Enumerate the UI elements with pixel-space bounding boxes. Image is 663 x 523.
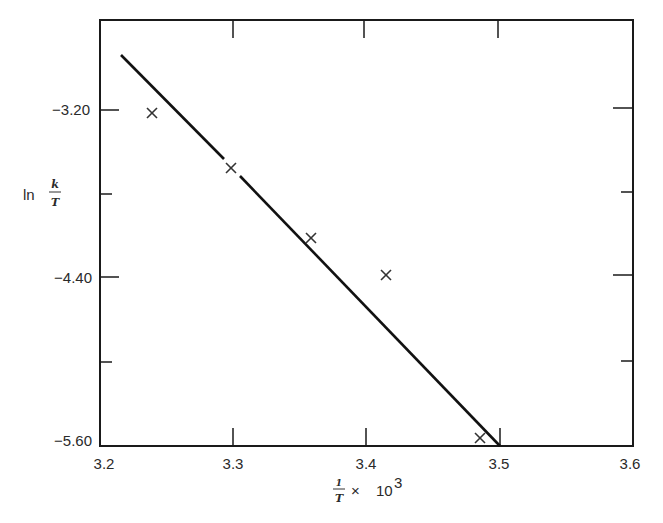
x-axis-label-denominator: T — [335, 492, 344, 505]
x-axis-label-exponent: 3 — [394, 474, 402, 491]
y-axis-label: ln k T — [23, 178, 61, 209]
chart: −3.20 −4.40 −5.60 3.2 3.3 3.4 3.5 3.6 ln… — [0, 0, 663, 523]
y-ticks-left — [100, 110, 119, 362]
plot-frame — [100, 20, 633, 446]
data-point-x-marker — [147, 108, 157, 118]
y-tick-label: −3.20 — [52, 101, 90, 118]
y-tick-label: −4.40 — [54, 269, 92, 286]
y-tick-label: −5.60 — [54, 432, 92, 449]
y-axis-label-prefix: ln — [23, 186, 35, 203]
x-ticks-top — [233, 20, 498, 38]
x-tick-label: 3.3 — [223, 455, 244, 472]
x-tick-label: 3.5 — [489, 455, 510, 472]
x-axis-label-base: 10 — [376, 482, 393, 499]
x-axis-label: 1 T × 10 3 — [333, 474, 402, 505]
y-axis-label-denominator: T — [51, 196, 60, 209]
y-ticks-right — [613, 108, 633, 361]
y-axis-label-numerator: k — [51, 178, 59, 191]
x-ticks-bottom — [233, 428, 500, 446]
data-point-x-marker — [306, 233, 316, 243]
fit-line — [121, 55, 500, 446]
x-tick-label: 3.4 — [356, 455, 377, 472]
data-point-x-marker — [226, 163, 236, 173]
data-markers — [147, 108, 485, 443]
x-axis-label-numerator: 1 — [336, 478, 342, 488]
x-tick-label: 3.2 — [94, 455, 115, 472]
data-point-x-marker — [475, 433, 485, 443]
x-axis-label-times: × — [351, 482, 360, 499]
data-point-x-marker — [381, 270, 391, 280]
x-tick-label: 3.6 — [620, 455, 641, 472]
